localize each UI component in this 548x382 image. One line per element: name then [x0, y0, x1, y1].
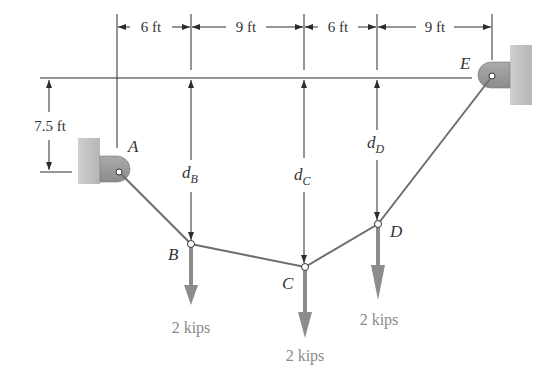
sag-dimensions [191, 80, 377, 263]
load-label-b: 2 kips [172, 319, 211, 337]
wall-e [510, 45, 532, 105]
point-label-a: A [127, 137, 139, 156]
cable-diagram: 6 ft 9 ft 6 ft 9 ft 7.5 ft dB dC dD A E [0, 0, 548, 382]
dim-label-de: 9 ft [425, 19, 446, 35]
pin-e [489, 73, 495, 79]
pin-b [188, 241, 195, 248]
wall-a [78, 138, 100, 184]
dim-label-bc: 9 ft [236, 19, 257, 35]
point-label-b: B [168, 245, 179, 264]
pin-d [375, 221, 382, 228]
point-label-c: C [282, 274, 294, 293]
dim-label-cd: 6 ft [328, 19, 349, 35]
sag-label-dc: dC [294, 165, 312, 188]
dim-label-vertical: 7.5 ft [34, 118, 66, 134]
point-label-d: D [389, 222, 403, 241]
dim-label-ab: 6 ft [141, 19, 162, 35]
load-arrow-c [298, 270, 312, 338]
sag-label-db: dB [182, 163, 199, 186]
load-arrow-b [184, 247, 198, 305]
cable [121, 79, 490, 267]
point-label-e: E [459, 54, 471, 73]
load-arrow-d [371, 227, 385, 300]
support-a [78, 138, 130, 184]
sag-label-dd: dD [367, 133, 385, 156]
load-label-d: 2 kips [360, 311, 399, 329]
pin-c [302, 264, 309, 271]
load-label-c: 2 kips [286, 347, 325, 365]
support-e [478, 45, 532, 105]
